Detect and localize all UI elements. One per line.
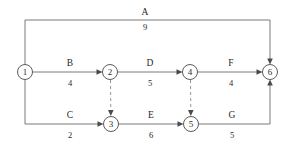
node-2-label: 2 xyxy=(108,67,113,77)
network-canvas: 1 2 3 4 5 6 A 9 B 4 xyxy=(0,0,291,146)
node-6-label: 6 xyxy=(268,67,273,77)
activity-network-diagram: 1 2 3 4 5 6 A 9 B 4 xyxy=(0,0,291,146)
edge-a-arrowhead xyxy=(267,59,273,65)
activity-b-name: B xyxy=(67,58,73,68)
edge-activity-f xyxy=(198,69,263,75)
edge-dummy-2-3-arrowhead xyxy=(108,110,114,116)
activity-f-name: F xyxy=(228,58,233,68)
node-1[interactable]: 1 xyxy=(18,65,33,80)
node-3-label: 3 xyxy=(109,119,114,129)
activity-g-name: G xyxy=(229,110,236,120)
label-activity-b: B 4 xyxy=(67,58,73,88)
edge-activity-c xyxy=(25,80,104,127)
label-activity-a: A 9 xyxy=(142,7,149,32)
label-activity-g: G 5 xyxy=(229,110,236,140)
edge-c-path xyxy=(25,80,100,125)
label-activity-c: C 2 xyxy=(67,110,73,140)
node-3[interactable]: 3 xyxy=(104,117,119,132)
edge-activity-e xyxy=(119,121,184,127)
edge-b-arrowhead xyxy=(97,69,103,75)
activity-a-duration: 9 xyxy=(143,22,147,32)
activity-d-name: D xyxy=(147,58,154,68)
activity-b-duration: 4 xyxy=(68,78,73,88)
activity-a-name: A xyxy=(142,7,149,17)
activity-c-name: C xyxy=(67,110,73,120)
activity-d-duration: 5 xyxy=(148,78,152,88)
edge-f-arrowhead xyxy=(257,69,263,75)
node-2[interactable]: 2 xyxy=(103,65,118,80)
node-5-label: 5 xyxy=(189,119,194,129)
edge-activity-d xyxy=(118,69,183,75)
node-4-label: 4 xyxy=(188,67,193,77)
edge-dummy-2-3 xyxy=(108,80,114,116)
edge-activity-g xyxy=(199,80,273,125)
node-5[interactable]: 5 xyxy=(184,117,199,132)
activity-c-duration: 2 xyxy=(68,130,72,140)
edge-e-arrowhead xyxy=(178,121,184,127)
label-activity-f: F 4 xyxy=(228,58,234,88)
label-activity-d: D 5 xyxy=(147,58,154,88)
label-activity-e: E 6 xyxy=(148,110,154,140)
activity-g-duration: 5 xyxy=(230,130,234,140)
activity-e-duration: 6 xyxy=(149,130,153,140)
edge-dummy-4-5-arrowhead xyxy=(188,110,194,116)
edge-activity-b xyxy=(33,69,103,75)
edge-d-arrowhead xyxy=(177,69,183,75)
node-4[interactable]: 4 xyxy=(183,65,198,80)
edge-dummy-4-5 xyxy=(188,80,194,116)
activity-f-duration: 4 xyxy=(229,78,234,88)
edge-g-arrowhead xyxy=(267,80,273,86)
node-6[interactable]: 6 xyxy=(263,65,278,80)
edge-c-arrowhead xyxy=(98,121,104,127)
activity-e-name: E xyxy=(148,110,154,120)
node-1-label: 1 xyxy=(23,67,28,77)
